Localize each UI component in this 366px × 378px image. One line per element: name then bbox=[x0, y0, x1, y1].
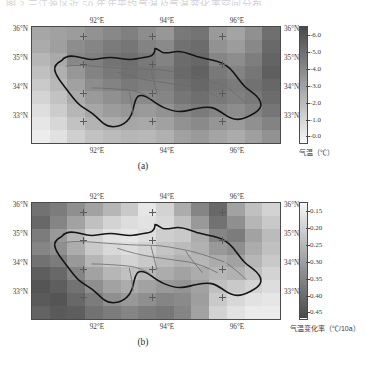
river-or-subregion-line bbox=[129, 92, 133, 116]
river-or-subregion-line bbox=[66, 241, 225, 262]
axis-tick-mark bbox=[31, 36, 32, 37]
axis-tick-mark bbox=[280, 240, 281, 241]
panel-b-colorbar: 0.150.200.250.300.350.400.45 bbox=[299, 202, 359, 320]
axis-tick-mark bbox=[222, 143, 223, 144]
colorbar-segment bbox=[300, 140, 307, 142]
river-or-subregion-line bbox=[226, 263, 246, 280]
axis-tick-mark bbox=[152, 26, 153, 27]
axis-tick-mark bbox=[31, 64, 32, 65]
river-or-subregion-line bbox=[117, 248, 217, 273]
river-or-subregion-line bbox=[129, 268, 133, 292]
river-or-subregion-line bbox=[226, 87, 246, 104]
sanjiangyuan-boundary bbox=[55, 225, 261, 303]
axis-tick-mark bbox=[31, 212, 32, 213]
panel-b-lon-tick-top-0: 92°E bbox=[82, 193, 112, 201]
panel-a-lat-tick-left-0: 36°N bbox=[2, 25, 28, 33]
map-outline-overlay bbox=[32, 27, 280, 143]
axis-tick-mark bbox=[83, 26, 84, 27]
panel-a-caption: (a) bbox=[0, 161, 326, 171]
panel-a-colorbar: -6.0-5.0-4.0-3.0-2.0-1.0-0.0 bbox=[299, 26, 359, 144]
panel-a: 92°E 94°E 96°E 36°N 35°N 34°N 33°N 36°N … bbox=[0, 14, 366, 180]
panel-b-lon-tick-bottom-1: 94°E bbox=[152, 323, 182, 331]
panel-a-lat-tick-left-1: 35°N bbox=[2, 54, 28, 62]
axis-tick-mark bbox=[152, 202, 153, 203]
axis-tick-mark bbox=[280, 64, 281, 65]
colorbar-tick-label: 0.40 bbox=[310, 292, 322, 300]
colorbar-tick-label: -4.0 bbox=[310, 65, 321, 73]
river-or-subregion-line bbox=[92, 264, 152, 275]
panel-a-lat-tick-left-2: 34°N bbox=[2, 83, 28, 91]
axis-tick-mark bbox=[280, 36, 281, 37]
colorbar-tick-label: 0.20 bbox=[310, 224, 322, 232]
panel-a-lon-tick-bottom-1: 94°E bbox=[152, 147, 182, 155]
panel-b-lat-tick-left-3: 33°N bbox=[2, 288, 28, 296]
panel-b-lon-tick-top-1: 94°E bbox=[152, 193, 182, 201]
panel-a-lon-tick-bottom-0: 92°E bbox=[82, 147, 112, 155]
axis-tick-mark bbox=[31, 121, 32, 122]
colorbar-segment bbox=[300, 316, 307, 318]
river-or-subregion-line bbox=[117, 72, 217, 97]
axis-tick-mark bbox=[31, 240, 32, 241]
panel-a-lon-tick-top-2: 96°E bbox=[222, 17, 252, 25]
panel-a-lat-tick-left-3: 33°N bbox=[2, 112, 28, 120]
panel-b: 92°E 94°E 96°E 36°N 35°N 34°N 33°N 36°N … bbox=[0, 190, 366, 362]
axis-tick-mark bbox=[222, 26, 223, 27]
axis-tick-mark bbox=[222, 319, 223, 320]
map-outline-overlay bbox=[32, 203, 280, 319]
axis-tick-mark bbox=[280, 269, 281, 270]
colorbar-tick-label: -5.0 bbox=[310, 48, 321, 56]
axis-tick-mark bbox=[152, 319, 153, 320]
axis-tick-mark bbox=[31, 93, 32, 94]
colorbar-tick-label: 0.45 bbox=[310, 308, 322, 316]
colorbar-tick-label: 0.15 bbox=[310, 207, 322, 215]
axis-tick-mark bbox=[31, 297, 32, 298]
panel-a-lon-tick-top-1: 94°E bbox=[152, 17, 182, 25]
river-or-subregion-line bbox=[66, 65, 225, 86]
panel-b-lat-tick-left-1: 35°N bbox=[2, 230, 28, 238]
panel-b-lon-tick-bottom-0: 92°E bbox=[82, 323, 112, 331]
axis-tick-mark bbox=[83, 143, 84, 144]
panel-b-lon-tick-bottom-2: 96°E bbox=[222, 323, 252, 331]
panel-a-colorbar-title: 气温（℃） bbox=[299, 147, 334, 157]
axis-tick-mark bbox=[83, 202, 84, 203]
axis-tick-mark bbox=[280, 212, 281, 213]
river-or-subregion-line bbox=[92, 88, 152, 99]
panel-b-lat-tick-left-2: 34°N bbox=[2, 259, 28, 267]
panel-a-map bbox=[31, 26, 281, 144]
figure-page: 图 2 三江源区近 50 年年平均气温及气温变化率空间分布 92°E 94°E … bbox=[0, 0, 366, 378]
colorbar-tick-label: -1.0 bbox=[310, 116, 321, 124]
panel-b-caption: (b) bbox=[0, 337, 326, 347]
panel-a-lon-tick-bottom-2: 96°E bbox=[222, 147, 252, 155]
cropped-caption-text: 图 2 三江源区近 50 年年平均气温及气温变化率空间分布 bbox=[6, 0, 360, 6]
colorbar-tick-label: -6.0 bbox=[310, 31, 321, 39]
axis-tick-mark bbox=[280, 121, 281, 122]
colorbar-tick-label: -2.0 bbox=[310, 99, 321, 107]
axis-tick-mark bbox=[280, 297, 281, 298]
colorbar-tick-label: 0.35 bbox=[310, 275, 322, 283]
axis-tick-mark bbox=[83, 319, 84, 320]
axis-tick-mark bbox=[152, 143, 153, 144]
panel-b-map bbox=[31, 202, 281, 320]
sanjiangyuan-boundary bbox=[55, 49, 261, 127]
panel-b-lat-tick-left-0: 36°N bbox=[2, 201, 28, 209]
panel-b-colorbar-title: 气温变化率（℃/10a） bbox=[290, 323, 360, 333]
axis-tick-mark bbox=[222, 202, 223, 203]
panel-a-lon-tick-top-0: 92°E bbox=[82, 17, 112, 25]
axis-tick-mark bbox=[280, 93, 281, 94]
colorbar-tick-label: -0.0 bbox=[310, 132, 321, 140]
colorbar-tick-label: -3.0 bbox=[310, 82, 321, 90]
colorbar-tick-label: 0.30 bbox=[310, 258, 322, 266]
axis-tick-mark bbox=[31, 269, 32, 270]
colorbar-tick-label: 0.25 bbox=[310, 241, 322, 249]
panel-b-lon-tick-top-2: 96°E bbox=[222, 193, 252, 201]
